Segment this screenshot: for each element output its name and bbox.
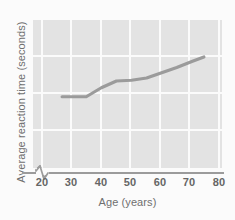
x-tick-label-70: 70 <box>177 176 201 188</box>
x-tick-label-40: 40 <box>89 176 113 188</box>
x-tick-label-80: 80 <box>207 176 231 188</box>
x-axis-title: Age (years) <box>33 196 222 208</box>
chart-figure: Average reaction time (seconds) 2.0 1.5 … <box>0 0 235 220</box>
x-tick-label-60: 60 <box>148 176 172 188</box>
x-tick-label-50: 50 <box>118 176 142 188</box>
x-tick-label-30: 30 <box>59 176 83 188</box>
x-tick-label-20: 20 <box>30 176 54 188</box>
